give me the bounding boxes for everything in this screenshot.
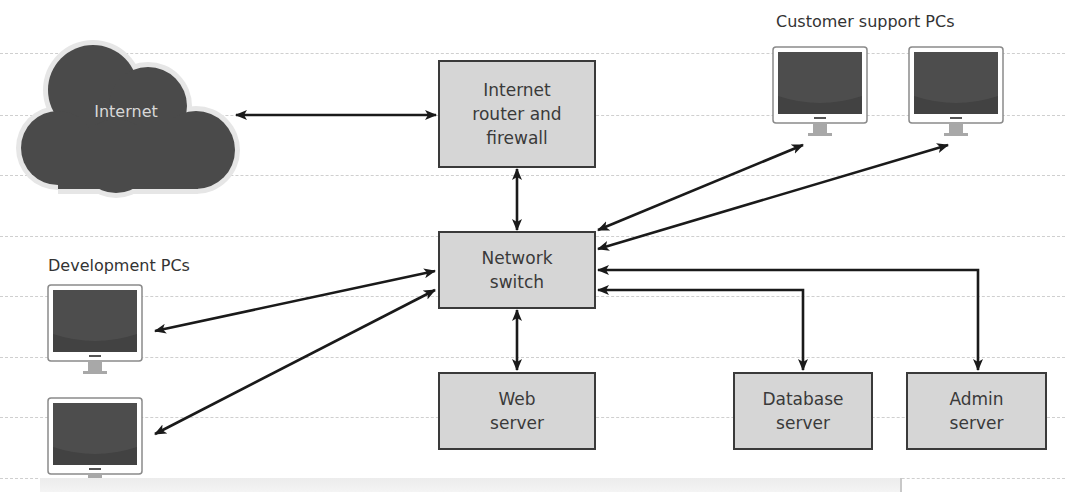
router-firewall-label: Internet router and firewall bbox=[472, 78, 561, 150]
development-group-label: Development PCs bbox=[48, 256, 190, 275]
admin-server-label: Admin server bbox=[949, 387, 1003, 435]
internet-cloud[interactable]: Internet bbox=[8, 28, 244, 198]
router-firewall-node[interactable]: Internet router and firewall bbox=[438, 60, 596, 168]
arrow-switch-admin-server bbox=[598, 270, 978, 370]
development-pc-1[interactable] bbox=[47, 284, 143, 376]
customer-support-pc-2[interactable] bbox=[908, 46, 1004, 138]
monitor-icon bbox=[47, 397, 143, 489]
network-switch-label: Network switch bbox=[482, 246, 553, 294]
page-fold-shadow bbox=[40, 478, 902, 492]
arrow-switch-dev-pc-2 bbox=[155, 290, 435, 434]
monitor-icon bbox=[772, 46, 868, 138]
web-server-node[interactable]: Web server bbox=[438, 372, 596, 450]
monitor-icon bbox=[47, 284, 143, 376]
network-switch-node[interactable]: Network switch bbox=[438, 231, 596, 309]
customer-support-pc-1[interactable] bbox=[772, 46, 868, 138]
development-pc-2[interactable] bbox=[47, 397, 143, 489]
arrow-switch-support-pc-1 bbox=[598, 145, 803, 230]
network-diagram: Internet Internet router and firewall Ne… bbox=[0, 0, 1065, 492]
arrow-switch-support-pc-2 bbox=[598, 145, 948, 249]
internet-label: Internet bbox=[8, 28, 244, 198]
arrow-switch-database-server bbox=[598, 290, 803, 370]
monitor-icon bbox=[908, 46, 1004, 138]
customer-support-group-label: Customer support PCs bbox=[776, 12, 954, 31]
database-server-node[interactable]: Database server bbox=[733, 372, 873, 450]
arrow-switch-dev-pc-1 bbox=[155, 271, 435, 331]
database-server-label: Database server bbox=[762, 387, 843, 435]
admin-server-node[interactable]: Admin server bbox=[906, 372, 1047, 450]
guide-line bbox=[0, 357, 1065, 358]
web-server-label: Web server bbox=[490, 387, 544, 435]
